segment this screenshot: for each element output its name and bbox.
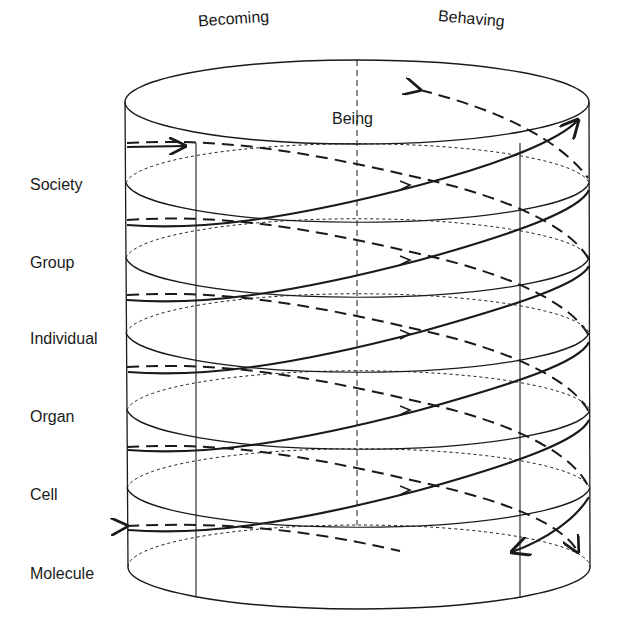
- cylinder-helix-diagram: Becoming Behaving Being Society Group In…: [0, 0, 622, 632]
- cylinder-drawing: [0, 0, 622, 632]
- level-label-individual: Individual: [30, 330, 98, 348]
- level-label-molecule: Molecule: [30, 565, 94, 583]
- level-label-organ: Organ: [30, 408, 74, 426]
- level-label-cell: Cell: [30, 486, 58, 504]
- level-label-society: Society: [30, 176, 82, 194]
- level-label-group: Group: [30, 254, 74, 272]
- axis-label-being: Being: [332, 110, 373, 128]
